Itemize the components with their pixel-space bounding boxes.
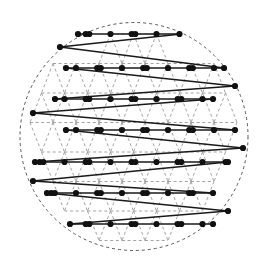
lattice-node-pair-right (178, 96, 184, 102)
lattice-node (199, 159, 205, 165)
path-endpoint-node (52, 96, 58, 102)
lattice-node-pair-right (144, 65, 150, 71)
lattice-node-pair-right (132, 159, 138, 165)
lattice-node (211, 127, 217, 133)
path-turn-segment (47, 193, 228, 211)
lattice-edge (42, 152, 54, 182)
lattice-node (119, 190, 125, 196)
lattice-edge (157, 182, 169, 212)
path-endpoint-node (75, 31, 81, 37)
lattice-node-pair-right (86, 221, 92, 227)
figure-container (0, 0, 268, 273)
path-endpoint-node (63, 65, 69, 71)
lattice-node-pair-right (86, 31, 92, 37)
path-endpoint-node (67, 221, 73, 227)
lattice-edge (53, 152, 65, 182)
lattice-node-pair-right (86, 159, 92, 165)
lattice-node (199, 96, 205, 102)
path-endpoint-node (210, 190, 216, 196)
lattice-node (153, 159, 159, 165)
lattice-node (73, 190, 79, 196)
lattice-edge (145, 182, 157, 212)
lattice-edge (191, 152, 203, 182)
lattice-node (107, 96, 113, 102)
lattice-node (153, 221, 159, 227)
path-endpoint-node (176, 31, 182, 37)
lattice-node-pair-right (98, 190, 104, 196)
lattice-node-pair-right (144, 127, 150, 133)
lattice-edge (111, 34, 123, 64)
lattice-edge (203, 182, 215, 212)
path-endpoint-node (63, 127, 69, 133)
lattice-node (199, 221, 205, 227)
lattice-node (165, 65, 171, 71)
path-endpoint-node (221, 65, 227, 71)
lattice-edge (42, 93, 54, 123)
lattice-node-pair-right (190, 127, 196, 133)
lattice-node-pair-right (144, 190, 150, 196)
lattice-node-pair-right (98, 65, 104, 71)
lattice-node (61, 159, 67, 165)
path-endpoint-node (210, 221, 216, 227)
lattice-node-pair-right (132, 221, 138, 227)
path-turn-segment (60, 47, 224, 68)
lattice-node-pair-right (178, 221, 184, 227)
lattice-edge (122, 182, 134, 212)
lattice-node-pair-right (190, 65, 196, 71)
lattice-edge (42, 123, 54, 153)
lattice-node (119, 65, 125, 71)
path-turn-node (225, 208, 231, 214)
path-turn-segment (33, 113, 235, 130)
path-turn-node (30, 178, 36, 184)
path-endpoint-node (32, 159, 38, 165)
lattice-edge (214, 123, 226, 153)
path-endpoint-node (225, 159, 231, 165)
lattice-node (61, 96, 67, 102)
lattice-node (153, 31, 159, 37)
lattice-node (73, 127, 79, 133)
lattice-edge (122, 34, 134, 64)
lattice-edge (191, 182, 203, 212)
path-turn-node (57, 44, 63, 50)
lattice-edge (157, 152, 169, 182)
lattice-node (107, 31, 113, 37)
lattice-edge (53, 64, 65, 94)
lattice-node (211, 65, 217, 71)
lattice-edge (42, 64, 54, 94)
lattice-edge (134, 182, 146, 212)
lattice-edge (99, 34, 111, 64)
lattice-edge (157, 123, 169, 153)
lattice-edge (30, 123, 42, 153)
lattice-node-pair-right (132, 96, 138, 102)
lattice-node (165, 190, 171, 196)
path-endpoint-node (44, 190, 50, 196)
lattice-node (119, 127, 125, 133)
lattice-edge (145, 152, 157, 182)
path-turn-segment (55, 86, 235, 99)
lattice-edge (203, 152, 215, 182)
lattice-figure-svg (0, 0, 268, 273)
lattice-node-pair-right (178, 159, 184, 165)
lattice-edge (88, 152, 100, 182)
lattice-edge (214, 152, 226, 182)
lattice-edge (168, 123, 180, 153)
path-turn-node (232, 83, 238, 89)
lattice-node-pair-right (86, 96, 92, 102)
path-endpoint-node (232, 127, 238, 133)
lattice-edge (226, 93, 238, 123)
lattice-node (73, 65, 79, 71)
lattice-node-pair-right (40, 159, 46, 165)
lattice-node (165, 127, 171, 133)
path-turn-node (30, 110, 36, 116)
lattice-edge (111, 123, 123, 153)
path-endpoint-node (210, 96, 216, 102)
lattice-edge (134, 152, 146, 182)
lattice-node (107, 221, 113, 227)
lattice-node-pair-right (52, 190, 58, 196)
lattice-node (153, 96, 159, 102)
lattice-node-pair-right (98, 127, 104, 133)
lattice-edge (53, 182, 65, 212)
path-turn-segment (66, 68, 235, 86)
lattice-edge (76, 123, 88, 153)
lattice-edge (53, 123, 65, 153)
